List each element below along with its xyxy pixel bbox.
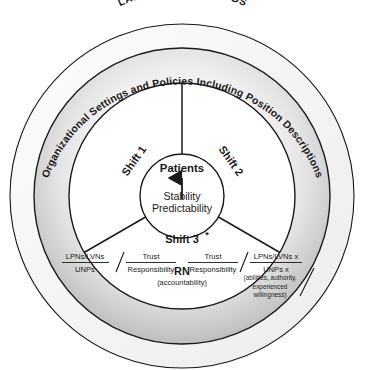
center-predictability-label: Predictability (152, 202, 213, 214)
rn-sublabel: (accountability) (157, 278, 207, 287)
diagram-canvas: LAWS AND STANDARDS Organizational Settin… (0, 0, 365, 370)
fraction-right-numerator: LPNs/LVNs x (254, 252, 299, 261)
center-patients-label: Patients (160, 162, 204, 174)
sector-label-shift-3-marker: * (205, 230, 209, 240)
fraction-left-mid-denominator: Responsibility (128, 265, 175, 274)
center-stability-label: Stability (163, 190, 201, 202)
fraction-right-denominator: UNPs x (263, 265, 289, 274)
rn-label: RN (174, 265, 190, 277)
fraction-left-denominator: UNPs (75, 265, 95, 274)
right-note-line-1: (abilities, authority, (244, 274, 297, 282)
fraction-left-numerator: LPNs/LVNs (66, 252, 105, 261)
fraction-left-mid-numerator: Trust (142, 252, 160, 261)
sector-label-shift-3: Shift 3 (165, 233, 199, 245)
outer-title-text: LAWS AND STANDARDS (116, 0, 248, 8)
fraction-right-mid-numerator: Trust (204, 252, 222, 261)
outer-title: LAWS AND STANDARDS (116, 0, 248, 8)
right-note-line-2: experienced (253, 283, 288, 291)
right-note-line-3: willingness) (252, 291, 286, 299)
fraction-right-mid-denominator: Responsibility (190, 265, 237, 274)
nursing-delegation-diagram: LAWS AND STANDARDS Organizational Settin… (0, 0, 365, 370)
